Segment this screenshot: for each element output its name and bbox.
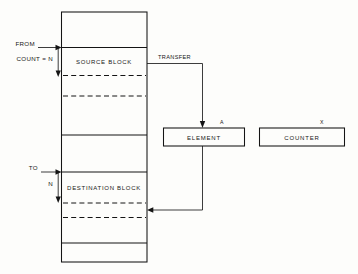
memory-column bbox=[62, 12, 148, 262]
return-path-line bbox=[152, 146, 203, 210]
diagram-canvas: SOURCE BLOCK DESTINATION BLOCK FROM COUN… bbox=[0, 0, 358, 274]
destination-block-label: DESTINATION BLOCK bbox=[67, 185, 141, 191]
count-arrowhead-icon bbox=[56, 71, 61, 78]
n-label: N bbox=[48, 180, 53, 187]
from-label: FROM bbox=[15, 40, 35, 47]
element-box-tag: A bbox=[220, 119, 224, 125]
count-label: COUNT = N bbox=[16, 55, 53, 62]
counter-box[interactable]: COUNTER bbox=[260, 128, 345, 146]
transfer-arrowhead-icon bbox=[200, 121, 205, 128]
transfer-path-line bbox=[147, 64, 203, 123]
return-arrowhead-icon bbox=[147, 207, 153, 212]
transfer-label: TRANSFER bbox=[158, 54, 191, 60]
n-span-arrow bbox=[56, 172, 61, 203]
block-transfer-diagram: SOURCE BLOCK DESTINATION BLOCK FROM COUN… bbox=[0, 0, 358, 274]
n-arrowhead-icon bbox=[56, 197, 61, 204]
to-label: TO bbox=[29, 164, 38, 171]
source-block-label: SOURCE BLOCK bbox=[76, 59, 132, 65]
memory-column-outline bbox=[62, 12, 148, 262]
counter-box-label: COUNTER bbox=[284, 135, 319, 141]
transfer-path bbox=[147, 64, 205, 129]
return-path bbox=[147, 146, 203, 213]
count-span-arrow bbox=[56, 48, 61, 78]
counter-box-tag: X bbox=[320, 119, 324, 125]
element-box[interactable]: ELEMENT bbox=[164, 128, 245, 146]
element-box-label: ELEMENT bbox=[187, 135, 221, 141]
